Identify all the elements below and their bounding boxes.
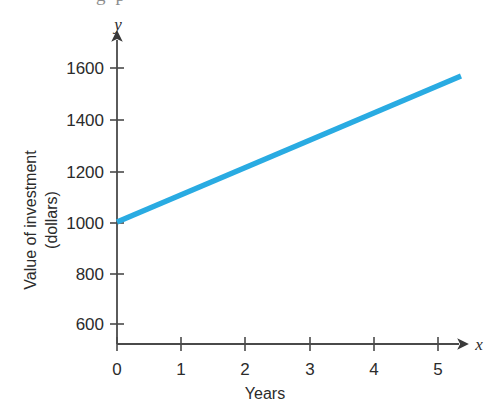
x-axis-variable-label: x xyxy=(474,335,483,354)
y-axis-title-line-2: (dollars) xyxy=(43,191,60,249)
x-tick-label-1: 1 xyxy=(176,360,185,379)
x-axis-title: Years xyxy=(245,385,285,402)
y-tick-label-1000: 1000 xyxy=(66,214,104,233)
y-axis-tick-labels: 1600 1400 1200 1000 800 600 xyxy=(66,59,104,334)
chart-svg: 1600 1400 1200 1000 800 600 0 1 2 3 4 5 xyxy=(0,0,494,410)
x-tick-label-5: 5 xyxy=(433,360,442,379)
investment-growth-chart: gp 1600 1400 1200 1000 800 600 xyxy=(0,0,494,410)
investment-value-line xyxy=(117,76,461,222)
y-tick-label-1600: 1600 xyxy=(66,59,104,78)
x-tick-label-3: 3 xyxy=(305,360,314,379)
x-axis-tick-labels: 0 1 2 3 4 5 xyxy=(112,360,442,379)
y-axis-variable-label: y xyxy=(112,15,122,34)
y-tick-label-800: 800 xyxy=(76,265,104,284)
y-tick-label-600: 600 xyxy=(76,315,104,334)
x-tick-label-2: 2 xyxy=(240,360,249,379)
x-tick-label-0: 0 xyxy=(112,360,121,379)
x-tick-label-4: 4 xyxy=(369,360,378,379)
y-tick-label-1200: 1200 xyxy=(66,163,104,182)
y-axis-title-line-1: Value of investment xyxy=(22,150,39,290)
y-tick-label-1400: 1400 xyxy=(66,111,104,130)
